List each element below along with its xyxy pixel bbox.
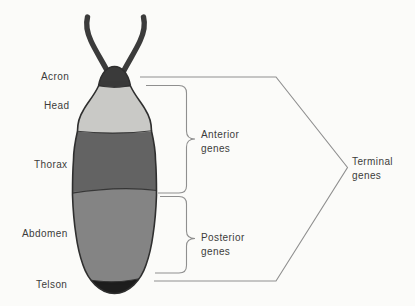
- label-terminal-genes-line1: Terminal: [352, 155, 393, 169]
- label-posterior-genes: Posterior genes: [201, 231, 245, 258]
- label-posterior-genes-line1: Posterior: [201, 231, 245, 245]
- label-acron: Acron: [41, 72, 69, 82]
- label-anterior-genes-line2: genes: [201, 142, 239, 156]
- label-telson: Telson: [36, 280, 67, 290]
- antenna-right: [120, 17, 144, 78]
- label-abdomen: Abdomen: [22, 229, 68, 239]
- label-thorax: Thorax: [34, 160, 68, 170]
- label-anterior-genes-line1: Anterior: [201, 128, 239, 142]
- label-terminal-genes: Terminal genes: [352, 155, 393, 182]
- label-posterior-genes-line2: genes: [201, 245, 245, 259]
- posterior-genes-bracket: [155, 197, 195, 274]
- label-anterior-genes: Anterior genes: [201, 128, 239, 155]
- label-terminal-genes-line2: genes: [352, 169, 393, 183]
- figure-canvas: Acron Head Thorax Abdomen Telson Anterio…: [0, 0, 415, 306]
- head-region: [60, 50, 170, 133]
- acron-region: [60, 50, 170, 87]
- label-head: Head: [44, 101, 70, 111]
